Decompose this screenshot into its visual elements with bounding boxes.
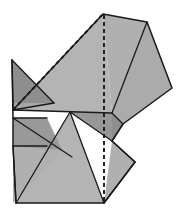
origami-diagram [0, 0, 187, 220]
figure-canvas [0, 0, 187, 220]
